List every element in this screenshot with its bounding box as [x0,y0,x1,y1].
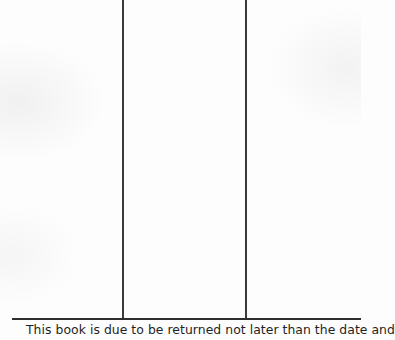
column-divider-2 [245,0,247,319]
bottom-rule-line [12,318,361,320]
return-notice-text: This book is due to be returned not late… [26,322,395,338]
date-due-column-3 [247,0,361,318]
column-divider-1 [122,0,124,319]
date-due-column-1 [0,0,122,318]
date-due-column-2 [124,0,245,318]
